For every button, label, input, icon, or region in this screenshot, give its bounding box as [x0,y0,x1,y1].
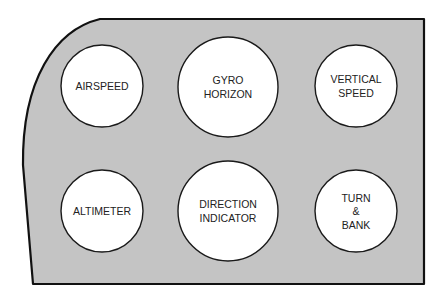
instrument-label: HORIZON [204,88,252,100]
instrument-label: DIRECTION [199,198,257,210]
instrument-vertical-speed: VERTICALSPEED [315,45,397,127]
instrument-label: TURN [341,192,370,204]
instrument-label: GYRO [213,74,244,86]
instrument-gyro-horizon: GYROHORIZON [178,37,278,137]
instrument-label: BANK [342,219,371,231]
instrument-label: & [352,205,359,217]
instrument-airspeed: AIRSPEED [61,45,143,127]
instrument-label: VERTICAL [330,73,381,85]
instrument-label: AIRSPEED [75,80,129,92]
instrument-label: SPEED [338,87,374,99]
instrument-label: ALTIMETER [73,205,132,217]
instrument-altimeter: ALTIMETER [61,170,143,252]
instrument-direction-indicator: DIRECTIONINDICATOR [178,161,278,261]
instrument-label: INDICATOR [200,212,257,224]
instrument-panel-diagram: AIRSPEEDGYROHORIZONVERTICALSPEEDALTIMETE… [0,0,448,302]
instrument-turn-and-bank: TURN&BANK [315,170,397,252]
